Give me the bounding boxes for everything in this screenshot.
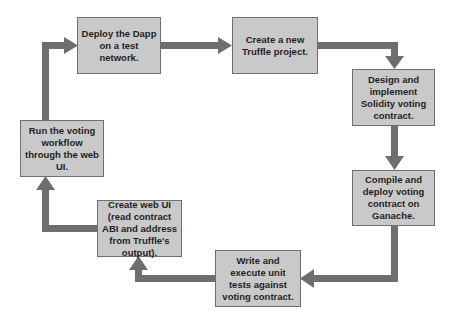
step-label: Run the voting workflow through the web … [24, 125, 100, 173]
step-label: Compile and deploy voting contract on Ga… [356, 174, 431, 222]
arrow-tests-to-web-ui [129, 256, 215, 282]
step-label: Create web UI (read contract ABI and add… [101, 199, 178, 259]
flowchart-canvas: Deploy the Dapp on a test network. Creat… [0, 0, 450, 320]
step-label: Write and execute unit tests against vot… [219, 255, 297, 303]
step-write-tests: Write and execute unit tests against vot… [215, 250, 301, 307]
step-compile-deploy: Compile and deploy voting contract on Ga… [352, 170, 435, 226]
arrow-compile-to-tests [300, 225, 398, 288]
step-label: Create a new Truffle project. [236, 34, 314, 58]
step-label: Design and implement Solidity voting con… [356, 74, 431, 122]
arrow-run-to-deploy [42, 37, 78, 120]
step-create-truffle-project: Create a new Truffle project. [232, 17, 318, 74]
step-run-workflow: Run the voting workflow through the web … [20, 120, 104, 177]
arrow-deploy-to-create-truffle [160, 37, 232, 54]
arrow-create-truffle-to-design [317, 42, 404, 69]
step-design-contract: Design and implement Solidity voting con… [352, 69, 435, 126]
arrow-design-to-compile [385, 125, 404, 170]
step-create-web-ui: Create web UI (read contract ABI and add… [97, 200, 182, 257]
arrow-web-ui-to-run [36, 176, 97, 232]
step-label: Deploy the Dapp on a test network. [81, 28, 157, 64]
step-deploy-dapp: Deploy the Dapp on a test network. [77, 17, 161, 74]
